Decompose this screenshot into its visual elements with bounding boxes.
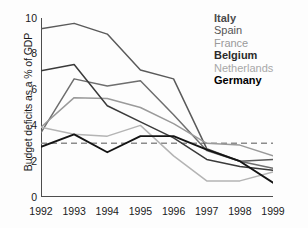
legend-item-germany: Germany <box>214 74 306 86</box>
legend-item-france: France <box>214 37 306 49</box>
y-tick-label: 8 <box>21 48 37 59</box>
y-tick-label: 4 <box>21 120 37 131</box>
legend-item-italy: Italy <box>214 12 306 24</box>
y-tick-label: 2 <box>21 156 37 167</box>
x-axis-tick-labels: 19921993199419951996199719981999 <box>0 200 308 220</box>
y-tick-label: 6 <box>21 84 37 95</box>
series-line-france <box>41 98 273 156</box>
y-tick-label: 10 <box>21 13 37 24</box>
x-tick-label: 1999 <box>253 206 293 217</box>
series-line-spain <box>41 79 273 169</box>
chart-legend: ItalySpainFranceBelgiumNetherlandsGerman… <box>214 12 306 86</box>
legend-item-netherlands: Netherlands <box>214 62 306 74</box>
chart-figure: Budget deficits as a % of GDP 0246810 19… <box>0 0 308 228</box>
legend-item-spain: Spain <box>214 24 306 36</box>
y-axis-tick-labels: 0246810 <box>17 0 37 228</box>
legend-item-belgium: Belgium <box>214 49 306 61</box>
series-line-netherlands <box>41 125 273 180</box>
